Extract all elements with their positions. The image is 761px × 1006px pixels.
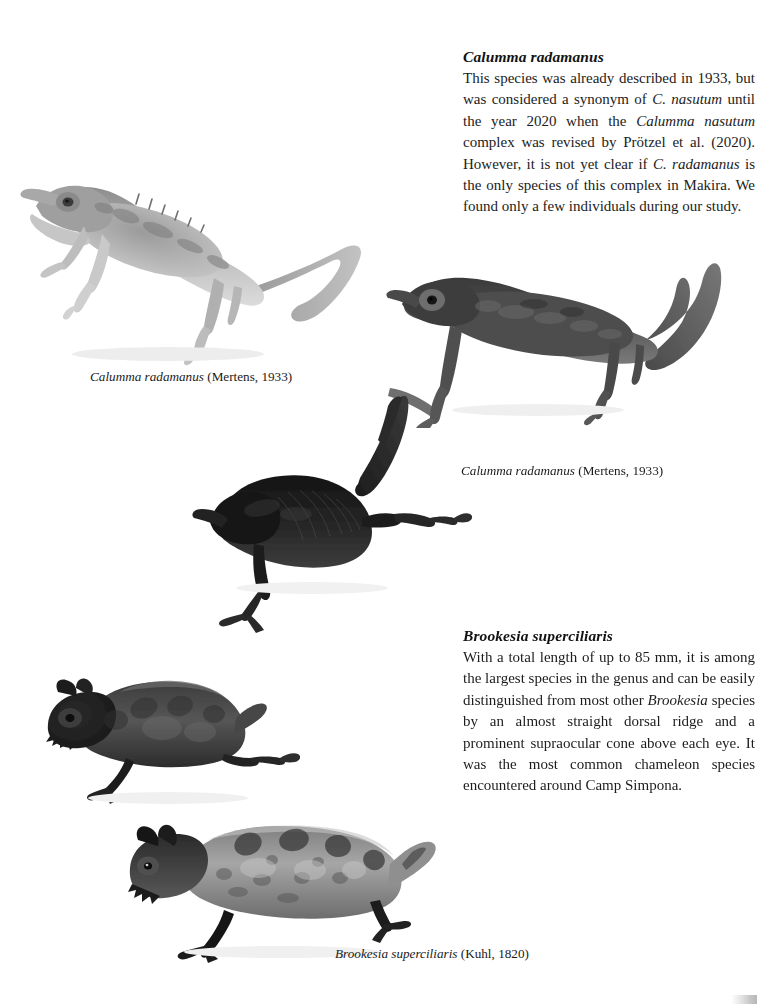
section-brookesia-superciliaris: Brookesia superciliaris With a total len… <box>463 625 755 797</box>
caption-authority: (Mertens, 1933) <box>204 369 292 384</box>
page-corner-mark <box>731 995 757 1004</box>
caption-authority: (Mertens, 1933) <box>575 463 663 478</box>
photo-brookesia-superciliaris-dark <box>28 662 328 812</box>
species-body-calumma-radamanus: This species was already described in 19… <box>463 68 755 218</box>
section-calumma-radamanus: Calumma radamanus This species was alrea… <box>463 46 755 218</box>
caption-scientific-name: Brookesia superciliaris <box>335 946 457 961</box>
photo-caption-3: Brookesia superciliaris (Kuhl, 1820) <box>335 945 529 963</box>
caption-authority: (Kuhl, 1820) <box>457 946 528 961</box>
photo-calumma-radamanus-pale <box>18 158 378 366</box>
photo-brookesia-superciliaris-pale <box>112 816 482 964</box>
photo-caption-2: Calumma radamanus (Mertens, 1933) <box>461 462 663 480</box>
caption-scientific-name: Calumma radamanus <box>461 463 575 478</box>
caption-scientific-name: Calumma radamanus <box>90 369 204 384</box>
species-body-brookesia-superciliaris: With a total length of up to 85 mm, it i… <box>463 647 755 797</box>
species-heading-calumma-radamanus: Calumma radamanus <box>463 46 755 67</box>
photo-caption-1: Calumma radamanus (Mertens, 1933) <box>90 368 292 386</box>
photo-calumma-radamanus-black <box>192 392 502 634</box>
document-page: Calumma radamanus This species was alrea… <box>0 0 761 1006</box>
species-heading-brookesia-superciliaris: Brookesia superciliaris <box>463 625 755 646</box>
